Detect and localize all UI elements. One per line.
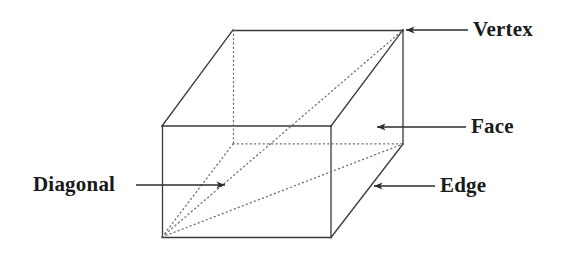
edge-top-left-receding	[162, 30, 233, 126]
label-diagonal: Diagonal	[33, 174, 115, 195]
label-edge: Edge	[440, 175, 486, 196]
cuboid-space-diagonal	[162, 30, 403, 237]
diagonal-line	[162, 30, 403, 237]
leader-arrows	[136, 30, 468, 186]
cuboid-diagram: Vertex Face Edge Diagonal	[0, 0, 562, 254]
label-vertex: Vertex	[473, 19, 533, 40]
edge-top-right-receding	[331, 30, 403, 126]
label-face: Face	[471, 116, 514, 137]
